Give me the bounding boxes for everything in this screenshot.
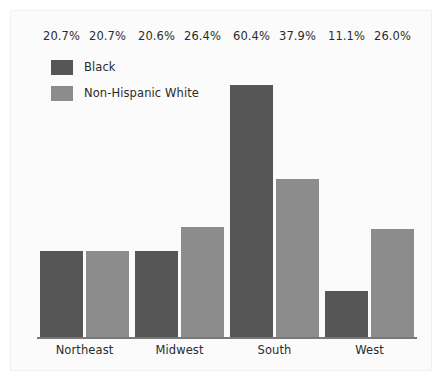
bar-group-west: 11.1% 26.0% West — [322, 46, 417, 337]
x-axis-label-northeast: Northeast — [37, 343, 132, 357]
bar-rect-west-black — [325, 291, 368, 337]
x-axis-label-west: West — [322, 343, 417, 357]
bar-value-west-non-hispanic-white: 26.0% — [374, 29, 411, 43]
bar-midwest-non-hispanic-white[interactable]: 26.4% — [181, 46, 224, 337]
bar-northeast-black[interactable]: 20.7% — [40, 46, 83, 337]
bar-northeast-non-hispanic-white[interactable]: 20.7% — [86, 46, 129, 337]
bar-rect-midwest-black — [135, 251, 178, 337]
bar-value-south-black: 60.4% — [233, 29, 270, 43]
bar-group-midwest: 20.6% 26.4% Midwest — [132, 46, 227, 337]
bar-value-midwest-black: 20.6% — [138, 29, 175, 43]
bar-midwest-black[interactable]: 20.6% — [135, 46, 178, 337]
x-axis-label-midwest: Midwest — [132, 343, 227, 357]
bar-rect-northeast-non-hispanic-white — [86, 251, 129, 337]
bar-rect-south-non-hispanic-white — [276, 179, 319, 337]
chart-frame: Black Non-Hispanic White 20.7% 20.7% Nor… — [10, 10, 432, 371]
bar-south-black[interactable]: 60.4% — [230, 46, 273, 337]
bar-value-northeast-non-hispanic-white: 20.7% — [89, 29, 126, 43]
bar-value-south-non-hispanic-white: 37.9% — [279, 29, 316, 43]
bar-west-black[interactable]: 11.1% — [325, 46, 368, 337]
bar-rect-midwest-non-hispanic-white — [181, 227, 224, 337]
bar-south-non-hispanic-white[interactable]: 37.9% — [276, 46, 319, 337]
bar-rect-west-non-hispanic-white — [371, 229, 414, 337]
x-axis-label-south: South — [227, 343, 322, 357]
bar-group-northeast: 20.7% 20.7% Northeast — [37, 46, 132, 337]
bar-value-northeast-black: 20.7% — [43, 29, 80, 43]
plot-area: Black Non-Hispanic White 20.7% 20.7% Nor… — [11, 11, 433, 372]
bar-group-south: 60.4% 37.9% South — [227, 46, 322, 337]
x-axis-line — [37, 337, 417, 339]
bar-rect-south-black — [230, 85, 273, 337]
bar-west-non-hispanic-white[interactable]: 26.0% — [371, 46, 414, 337]
bar-rect-northeast-black — [40, 251, 83, 337]
bar-value-west-black: 11.1% — [328, 29, 365, 43]
bar-value-midwest-non-hispanic-white: 26.4% — [184, 29, 221, 43]
